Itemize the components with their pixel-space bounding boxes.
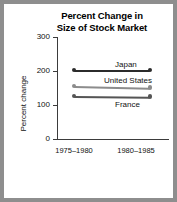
series-label-united-states: United States (104, 76, 152, 85)
data-point-japan-1 (148, 68, 152, 72)
x-tick-label-1980-1985: 1980–1985 (110, 146, 162, 155)
chart-title-line-2: Size of Stock Market (34, 22, 170, 34)
x-tick-label-1975-1980: 1975–1980 (48, 146, 100, 155)
y-tick-label-300: 300 (37, 32, 50, 41)
y-axis-title: Percent change (19, 54, 28, 154)
chart-figure: Percent Change in Size of Stock Market P… (4, 4, 173, 198)
y-tick-label-0: 0 (46, 134, 50, 143)
data-point-united-states-1 (148, 85, 152, 89)
series-line-japan (74, 70, 150, 72)
y-tick-label-100: 100 (37, 100, 50, 109)
chart-title-line-1: Percent Change in (34, 10, 170, 22)
series-line-united-states (74, 86, 150, 89)
series-layer (57, 34, 169, 146)
plot-area: 300 200 100 0 1975–1980 1980–1985 Japan … (57, 34, 169, 146)
data-point-france-1 (148, 94, 152, 98)
series-label-japan: Japan (115, 60, 137, 69)
series-label-france: France (115, 100, 140, 109)
chart-title: Percent Change in Size of Stock Market (34, 10, 170, 33)
series-line-france (74, 96, 150, 98)
y-tick-label-200: 200 (37, 66, 50, 75)
